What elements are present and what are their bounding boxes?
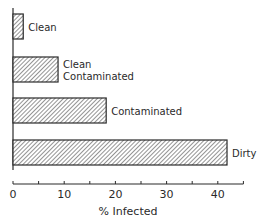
bar-rect bbox=[13, 57, 58, 82]
bar-label: Contaminated bbox=[63, 71, 134, 82]
x-axis-label: % Infected bbox=[99, 205, 158, 218]
x-tick-label: 40 bbox=[211, 188, 225, 201]
bar-label: Dirty bbox=[232, 148, 257, 159]
bar-clean-contaminated: CleanContaminated bbox=[13, 57, 134, 82]
bar-clean: Clean bbox=[13, 14, 57, 39]
bar-chart: CleanCleanContaminatedContaminatedDirty … bbox=[0, 0, 264, 221]
bars-group: CleanCleanContaminatedContaminatedDirty bbox=[13, 14, 257, 165]
x-tick-label: 0 bbox=[10, 188, 17, 201]
bar-dirty: Dirty bbox=[13, 140, 257, 165]
x-tick-label: 20 bbox=[108, 188, 122, 201]
bar-label: Contaminated bbox=[111, 106, 182, 117]
x-tick-label: 10 bbox=[57, 188, 71, 201]
bar-rect bbox=[13, 98, 106, 123]
bar-label: Clean bbox=[28, 22, 56, 33]
bar-contaminated: Contaminated bbox=[13, 98, 182, 123]
bar-rect bbox=[13, 140, 227, 165]
x-axis: 010203040 bbox=[10, 181, 244, 201]
bar-label: Clean bbox=[63, 59, 91, 70]
x-tick-label: 30 bbox=[160, 188, 174, 201]
bar-rect bbox=[13, 14, 23, 39]
